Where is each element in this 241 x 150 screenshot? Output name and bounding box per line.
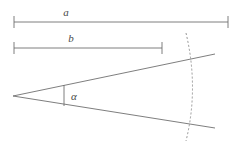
figure-container: a b α [0, 0, 241, 150]
angle-alpha-label: α [71, 90, 77, 102]
geometry-diagram: a b α [0, 0, 241, 150]
angle-marker: α [64, 85, 77, 106]
dimension-line-a: a [14, 6, 228, 28]
dimension-b-label: b [68, 32, 74, 44]
dimension-line-b: b [14, 32, 162, 54]
lower-ray [13, 96, 215, 128]
cone-rays [13, 54, 215, 128]
dimension-a-label: a [63, 6, 69, 18]
wavefront-arc-icon [186, 33, 193, 141]
upper-ray [13, 54, 215, 96]
